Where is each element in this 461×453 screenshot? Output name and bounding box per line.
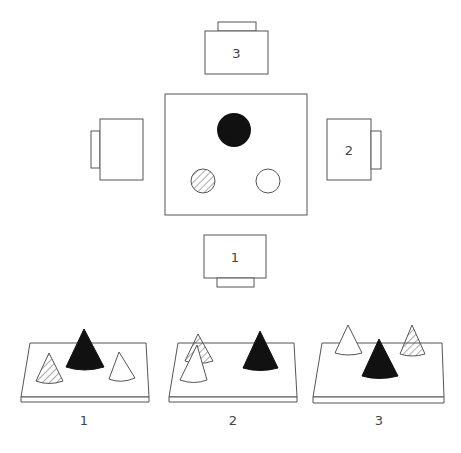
perspective-view-3: 3 (313, 325, 444, 428)
table-top-view (165, 94, 307, 215)
chair-seat (100, 119, 143, 180)
table-edge (313, 397, 444, 403)
table-edge (169, 397, 297, 402)
chair-back (217, 278, 254, 287)
observer-2-label: 2 (345, 143, 353, 158)
perspective-view-1: 1 (21, 329, 149, 428)
view-3-label: 3 (375, 413, 383, 428)
observer-left-chair (91, 119, 143, 180)
observer-1-chair: 1 (204, 235, 266, 287)
table-edge (21, 397, 149, 402)
observer-2-chair: 2 (327, 119, 381, 180)
view-1-label: 1 (80, 413, 88, 428)
spatial-perspective-diagram: 3 2 1 1 2 (0, 0, 461, 453)
view-2-label: 2 (229, 413, 237, 428)
hatched-cone (400, 325, 425, 356)
observer-1-label: 1 (231, 250, 239, 265)
perspective-view-2: 2 (169, 331, 297, 428)
chair-back (91, 131, 100, 168)
observer-3-label: 3 (232, 46, 240, 61)
white-cone (335, 325, 362, 355)
observer-3-chair: 3 (205, 22, 268, 74)
table (165, 94, 307, 215)
black-circle (217, 113, 251, 147)
chair-back (218, 22, 256, 31)
hatched-circle (191, 169, 215, 193)
white-circle (256, 169, 280, 193)
chair-back (371, 131, 381, 169)
